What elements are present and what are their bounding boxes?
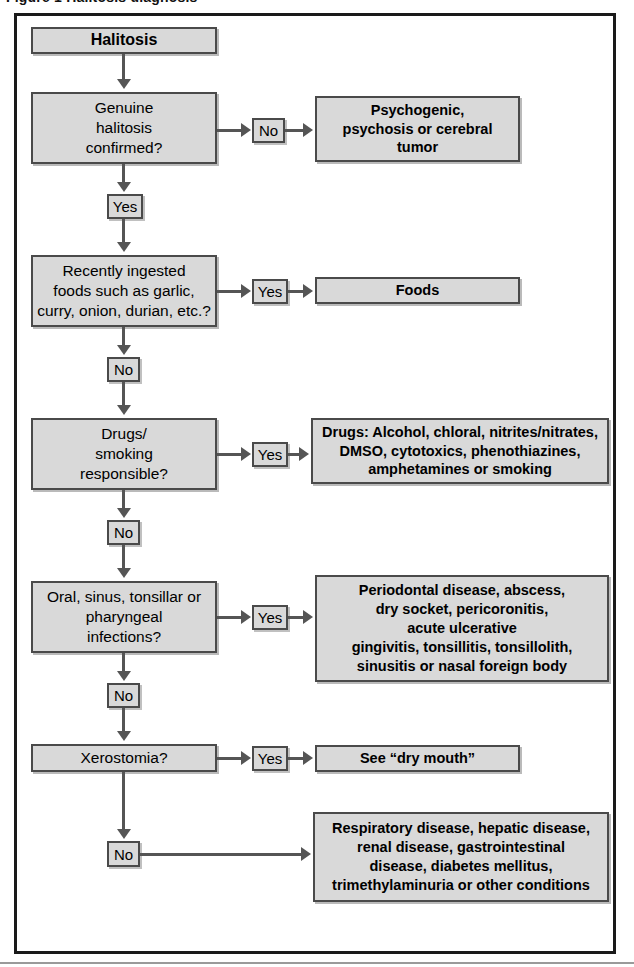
node-halitosis: Halitosis bbox=[31, 27, 217, 54]
node-foods-outcome-label: Foods bbox=[317, 281, 518, 300]
node-periodontal-outcome-label: Periodontal disease, abscess, dry socket… bbox=[317, 581, 607, 675]
node-halitosis-label: Halitosis bbox=[33, 31, 215, 49]
label-q5-yes: Yes bbox=[252, 746, 288, 771]
label-q5-yes-text: Yes bbox=[258, 750, 282, 767]
label-q3-yes: Yes bbox=[252, 442, 288, 467]
arrow-q2-to-no bbox=[117, 345, 131, 355]
arrow-start-to-q1 bbox=[117, 79, 131, 89]
node-oral-sinus-infections-label: Oral, sinus, tonsillar or pharyngeal inf… bbox=[33, 587, 215, 647]
arrow-q1-to-no bbox=[241, 123, 251, 137]
arrow-no-to-systemic bbox=[301, 847, 311, 861]
label-q4-no-text: No bbox=[114, 687, 133, 704]
label-q4-yes: Yes bbox=[252, 605, 288, 630]
label-q5-no: No bbox=[107, 841, 140, 867]
label-q1-yes: Yes bbox=[107, 194, 143, 219]
bottom-separator-rule bbox=[0, 962, 634, 964]
node-dry-mouth-outcome-label: See “dry mouth” bbox=[317, 749, 518, 768]
arrow-q4-to-yes bbox=[241, 610, 251, 624]
node-periodontal-outcome: Periodontal disease, abscess, dry socket… bbox=[315, 575, 609, 682]
node-xerostomia-label: Xerostomia? bbox=[33, 748, 215, 768]
node-recently-ingested-foods-label: Recently ingested foods such as garlic, … bbox=[33, 261, 215, 321]
label-q3-no-text: No bbox=[114, 524, 133, 541]
node-recently-ingested-foods: Recently ingested foods such as garlic, … bbox=[31, 255, 217, 327]
label-q1-yes-text: Yes bbox=[113, 198, 137, 215]
node-genuine-halitosis-confirmed: Genuine halitosis confirmed? bbox=[31, 92, 217, 164]
arrow-q5-to-yes bbox=[241, 751, 251, 765]
arrow-no-to-q4 bbox=[117, 568, 131, 578]
arrow-no-to-outcome1 bbox=[303, 123, 313, 137]
arrow-yes-to-q2 bbox=[117, 242, 131, 252]
arrow-q4-to-no bbox=[117, 671, 131, 681]
arrow-yes-to-foods bbox=[303, 284, 313, 298]
node-drugs-smoking-responsible: Drugs/ smoking responsible? bbox=[31, 418, 217, 490]
label-q1-no-text: No bbox=[259, 122, 278, 139]
label-q4-no: No bbox=[107, 683, 140, 708]
node-xerostomia: Xerostomia? bbox=[31, 744, 217, 772]
arrow-yes-to-drugs bbox=[299, 447, 309, 461]
label-q5-no-text: No bbox=[114, 846, 133, 863]
label-q2-no-text: No bbox=[114, 361, 133, 378]
connector-start-to-q1 bbox=[122, 54, 125, 82]
node-psychogenic-outcome: Psychogenic, psychosis or cerebral tumor bbox=[315, 96, 520, 162]
label-q2-no: No bbox=[107, 357, 140, 382]
connector-no-to-systemic bbox=[140, 853, 306, 856]
arrow-q3-to-yes bbox=[241, 447, 251, 461]
node-oral-sinus-infections: Oral, sinus, tonsillar or pharyngeal inf… bbox=[31, 581, 217, 653]
node-psychogenic-outcome-label: Psychogenic, psychosis or cerebral tumor bbox=[317, 101, 518, 158]
node-dry-mouth-outcome: See “dry mouth” bbox=[315, 745, 520, 772]
label-q4-yes-text: Yes bbox=[258, 609, 282, 626]
node-drugs-smoking-responsible-label: Drugs/ smoking responsible? bbox=[33, 424, 215, 484]
arrow-q1-to-yes bbox=[117, 182, 131, 192]
label-q2-yes: Yes bbox=[252, 279, 288, 304]
label-q1-no: No bbox=[252, 118, 285, 143]
arrow-q5-to-no bbox=[117, 829, 131, 839]
arrow-q2-to-yes bbox=[241, 284, 251, 298]
node-drugs-outcome-label: Drugs: Alcohol, chloral, nitrites/nitrat… bbox=[313, 423, 607, 480]
arrow-yes-to-dry-mouth bbox=[303, 751, 313, 765]
label-q3-no: No bbox=[107, 520, 140, 545]
node-systemic-outcome: Respiratory disease, hepatic disease, re… bbox=[313, 812, 609, 902]
label-q2-yes-text: Yes bbox=[258, 283, 282, 300]
figure-caption: Figure 1 Halitosis diagnosis bbox=[0, 0, 634, 11]
arrow-yes-to-periodontal bbox=[303, 610, 313, 624]
arrow-no-to-q3 bbox=[117, 405, 131, 415]
connector-q5-to-no bbox=[122, 772, 125, 833]
node-drugs-outcome: Drugs: Alcohol, chloral, nitrites/nitrat… bbox=[311, 418, 609, 484]
figure-canvas: Figure 1 Halitosis diagnosis Halitosis G… bbox=[0, 0, 634, 967]
arrow-q3-to-no bbox=[117, 508, 131, 518]
node-foods-outcome: Foods bbox=[315, 277, 520, 304]
figure-caption-text: Figure 1 Halitosis diagnosis bbox=[6, 0, 198, 5]
node-genuine-halitosis-confirmed-label: Genuine halitosis confirmed? bbox=[33, 98, 215, 158]
node-systemic-outcome-label: Respiratory disease, hepatic disease, re… bbox=[315, 819, 607, 894]
arrow-no-to-q5 bbox=[117, 731, 131, 741]
label-q3-yes-text: Yes bbox=[258, 446, 282, 463]
